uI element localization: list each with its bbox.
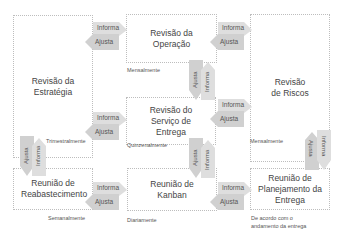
label-informa: Informa	[222, 101, 244, 108]
arrow-kanban-planejamento: Informa Ajusta	[210, 180, 250, 210]
label-ajusta: Ajusta	[192, 149, 198, 166]
box-label: Revisão de Riscos	[270, 77, 310, 99]
arrow-operacao-riscos: Informa Ajusta	[210, 20, 250, 50]
label-ajusta: Ajusta	[220, 38, 238, 45]
label-ajusta: Ajusta	[95, 38, 113, 45]
label-informa: Informa	[35, 146, 41, 166]
freq-servico: Quinzenalmente	[127, 142, 167, 149]
arrow-servico-kanban: Ajusta Informa	[187, 138, 217, 178]
label-ajusta: Ajusta	[95, 198, 113, 205]
label-ajusta: Ajusta	[308, 140, 314, 157]
label-ajusta: Ajusta	[220, 198, 238, 205]
box-label: Reunião de Kanban	[147, 179, 197, 201]
box-label: Revisão da Operação	[147, 28, 197, 50]
box-label: Revisão da Estratégia	[23, 76, 83, 98]
arrow-operacao-servico: Ajusta Informa	[187, 60, 217, 100]
label-informa: Informa	[222, 24, 244, 31]
box-label: Reunião de Planejamento da Entrega	[255, 173, 325, 206]
arrow-riscos-planejamento: Ajusta Informa	[303, 130, 333, 170]
label-informa: Informa	[204, 150, 210, 170]
arrow-estrategia-servico: Informa Ajusta	[85, 110, 125, 140]
label-informa: Informa	[222, 184, 244, 191]
label-informa: Informa	[97, 24, 119, 31]
label-informa: Informa	[97, 114, 119, 121]
box-label: Revisão do Serviço de Entrega	[146, 105, 196, 138]
box-revisao-operacao: Revisão da Operação	[126, 14, 217, 63]
label-ajusta: Ajusta	[95, 128, 113, 135]
freq-reabastecimento: Semanalmente	[48, 215, 85, 222]
freq-planejamento-1: De acordo com o	[251, 215, 293, 222]
label-informa: Informa	[321, 136, 327, 156]
freq-estrategia: Trimestralmente	[46, 138, 86, 145]
arrow-estrategia-reabastecimento: Ajusta Informa	[18, 136, 48, 176]
box-reuniao-planejamento: Reunião de Planejamento da Entrega	[250, 168, 330, 210]
label-ajusta: Ajusta	[23, 147, 29, 164]
freq-kanban: Diariamente	[127, 217, 157, 224]
arrow-estrategia-operacao: Informa Ajusta	[85, 20, 125, 50]
freq-operacao: Mensalmente	[127, 67, 160, 74]
label-ajusta: Ajusta	[220, 115, 238, 122]
freq-planejamento-2: andamento da entrega	[251, 223, 306, 230]
label-informa: Informa	[97, 184, 119, 191]
box-label: Reunião de Reabastecimento	[21, 178, 85, 200]
arrow-reabastecimento-kanban: Informa Ajusta	[85, 180, 125, 210]
freq-riscos: Mensalmente	[250, 138, 283, 145]
label-ajusta: Ajusta	[192, 71, 198, 88]
label-informa: Informa	[204, 72, 210, 92]
